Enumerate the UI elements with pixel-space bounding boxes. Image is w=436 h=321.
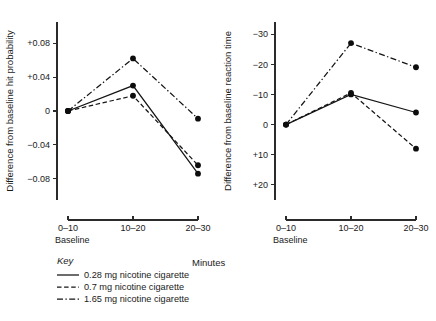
legend: Key 0.28 mg nicotine cigarette0.7 mg nic… — [57, 255, 287, 305]
x-axis-tick-label: 20–30 — [185, 223, 210, 233]
baseline-note: Baseline — [273, 235, 308, 245]
x-axis-tick-label: 20–30 — [403, 223, 428, 233]
legend-item-label: 0.28 mg nicotine cigarette — [84, 270, 189, 281]
legend-line-swatch-solid — [57, 270, 79, 280]
y-axis-tick-label: +0.04 — [27, 72, 50, 82]
series-line-dashed — [68, 96, 198, 166]
figure-container: +0.08+0.040−0.04−0.08Difference from bas… — [0, 0, 436, 321]
legend-item: 0.28 mg nicotine cigarette — [57, 269, 287, 281]
x-axis-tick-label: 0–10 — [276, 223, 296, 233]
y-axis-tick-label: +0.08 — [27, 38, 50, 48]
series-line-solid — [286, 94, 416, 124]
series-line-dashdot — [286, 43, 416, 124]
y-axis-tick-label: +10 — [253, 150, 268, 160]
legend-item-label: 1.65 mg nicotine cigarette — [84, 294, 189, 305]
y-axis-tick-label: −30 — [253, 29, 268, 39]
y-axis-title: Difference from baseline reaction time — [222, 31, 233, 191]
series-line-dashed — [286, 93, 416, 149]
data-point — [413, 64, 419, 70]
data-point — [413, 110, 419, 116]
legend-line-swatch-dashdot — [57, 294, 79, 304]
legend-item-label: 0.7 mg nicotine cigarette — [84, 282, 184, 293]
y-axis-tick-label: −20 — [253, 60, 268, 70]
series-line-solid — [68, 86, 198, 174]
y-axis-title: Difference from baseline hit probability — [4, 30, 15, 192]
y-axis-tick-label: 0 — [263, 120, 268, 130]
data-point — [130, 83, 136, 89]
series-line-dashdot — [68, 58, 198, 118]
y-axis-tick-label: +20 — [253, 180, 268, 190]
legend-item: 0.7 mg nicotine cigarette — [57, 281, 287, 293]
data-point — [195, 116, 201, 122]
y-axis-tick-label: −10 — [253, 90, 268, 100]
legend-title: Key — [57, 255, 287, 267]
data-point — [130, 93, 136, 99]
legend-line-swatch-dashed — [57, 282, 79, 292]
legend-rows: 0.28 mg nicotine cigarette0.7 mg nicotin… — [57, 269, 287, 305]
y-axis-tick-label: 0 — [45, 106, 50, 116]
x-axis-tick-label: 0–10 — [58, 223, 78, 233]
y-axis-tick-label: −0.08 — [27, 174, 50, 184]
data-point — [348, 90, 354, 96]
chart-hit-probability: +0.08+0.040−0.04−0.08Difference from bas… — [0, 0, 218, 255]
x-axis-tick-label: 10–20 — [120, 223, 145, 233]
chart-reaction-time: −30−20−100+10+20Difference from baseline… — [218, 0, 436, 255]
data-point — [413, 146, 419, 152]
data-point — [130, 56, 136, 62]
baseline-note: Baseline — [55, 235, 90, 245]
data-point — [65, 108, 71, 114]
x-axis-tick-label: 10–20 — [338, 223, 363, 233]
data-point — [283, 122, 289, 128]
data-point — [195, 171, 201, 177]
data-point — [348, 40, 354, 46]
data-point — [195, 162, 201, 168]
legend-item: 1.65 mg nicotine cigarette — [57, 293, 287, 305]
y-axis-tick-label: −0.04 — [27, 140, 50, 150]
